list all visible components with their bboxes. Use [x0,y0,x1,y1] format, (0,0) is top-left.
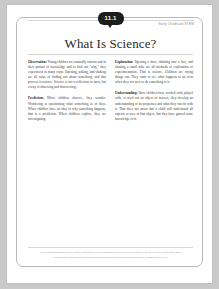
paragraph-text: Young children are naturally curious and… [28,60,106,89]
paragraph: Prediction: When children observe, they … [28,96,106,121]
footer-line-2: Published by National Press, www.childca… [28,256,193,261]
paragraph: Observation: Young children are naturall… [28,60,106,90]
title-divider [28,54,193,55]
footer-line-1: From Understanding Science in Early Chil… [28,251,193,256]
corner-label: Early Childhood STEM [159,22,194,26]
paragraph-heading: Observation: [28,60,47,64]
paragraph-heading: Exploration: [115,60,133,64]
badge-rule-left [27,20,105,21]
badge-rule-right [116,20,194,21]
footer: From Understanding Science in Early Chil… [28,251,193,260]
paragraph: Exploration: Opening a door, thinking in… [115,60,193,85]
paragraph-text: Once children have worked with, played w… [115,91,193,120]
paragraph-heading: Understanding: [115,91,137,95]
paragraph: Understanding: Once children have worked… [115,91,193,121]
footer-divider [28,247,193,248]
paragraph-heading: Prediction: [28,96,44,100]
column-left: Observation: Young children are naturall… [28,60,106,122]
chapter-badge: 11.1 [98,12,124,25]
body-columns: Observation: Young children are naturall… [28,60,193,122]
page-title: What Is Science? [17,36,204,52]
column-right: Exploration: Opening a door, thinking in… [115,60,193,122]
document-page: 11.1 Early Childhood STEM What Is Scienc… [7,5,212,283]
badge-row: 11.1 [17,12,204,29]
scan-backdrop: 11.1 Early Childhood STEM What Is Scienc… [0,0,219,289]
content-frame: 11.1 Early Childhood STEM What Is Scienc… [16,17,203,267]
